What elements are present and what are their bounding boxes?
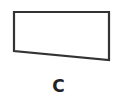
figure-label: C: [0, 76, 117, 96]
quadrilateral-outline: [14, 12, 109, 60]
